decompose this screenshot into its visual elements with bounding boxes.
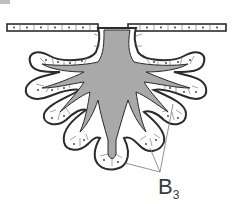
- gland-diagram: [0, 0, 232, 204]
- label-main: B: [158, 174, 173, 199]
- label-subscript: 3: [173, 188, 180, 202]
- b3-label: B3: [158, 176, 179, 201]
